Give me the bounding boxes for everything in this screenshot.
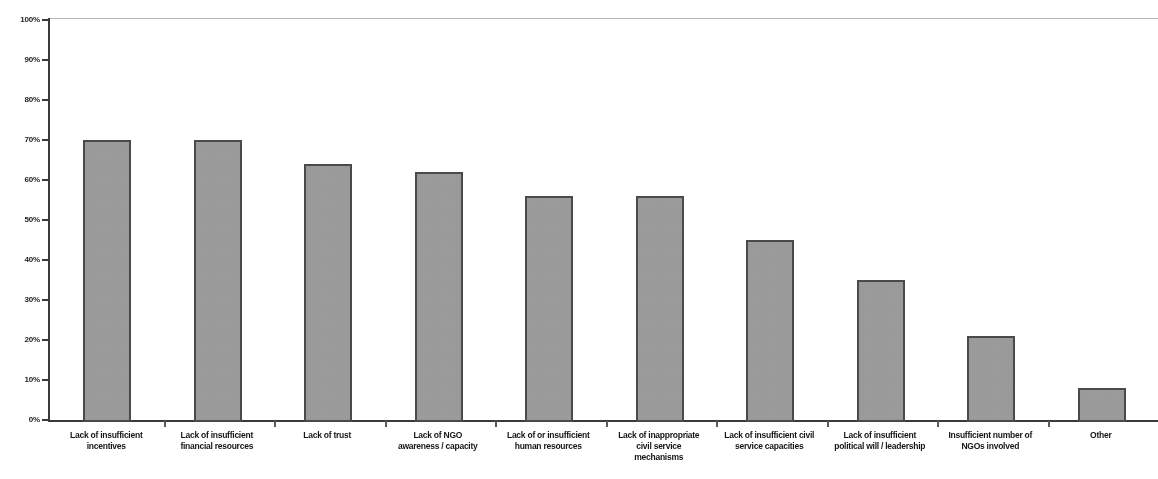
y-axis-tick-label: 60% <box>0 175 40 184</box>
y-axis-tick <box>42 99 49 101</box>
category-label-line: Lack of NGO <box>383 430 494 441</box>
category-label-line: service capacities <box>714 441 825 452</box>
x-axis-category-label: Lack of insufficientincentives <box>51 430 162 452</box>
x-axis-category-label: Insufficient number ofNGOs involved <box>935 430 1046 452</box>
bar <box>525 196 573 422</box>
y-axis-tick-label: 30% <box>0 295 40 304</box>
category-label-line: Other <box>1046 430 1157 441</box>
bar <box>967 336 1015 422</box>
x-axis-category-label: Lack of insufficientfinancial resources <box>162 430 273 452</box>
x-axis-tick <box>164 421 166 427</box>
category-label-line: Lack of or insufficient <box>493 430 604 441</box>
category-label-line: civil service <box>604 441 715 452</box>
bar <box>304 164 352 422</box>
y-axis-tick <box>42 139 49 141</box>
category-label-line: awareness / capacity <box>383 441 494 452</box>
y-axis-tick <box>42 339 49 341</box>
category-label-line: mechanisms <box>604 452 715 463</box>
bar <box>194 140 242 422</box>
x-axis-category-label: Other <box>1046 430 1157 441</box>
y-axis-tick <box>42 419 49 421</box>
y-axis-tick-label: 10% <box>0 375 40 384</box>
category-label-line: Lack of insufficient <box>51 430 162 441</box>
category-label-line: Lack of trust <box>272 430 383 441</box>
x-axis-category-label: Lack of inappropriatecivil servicemechan… <box>604 430 715 463</box>
y-axis-tick <box>42 59 49 61</box>
x-axis-category-label: Lack of insufficient civilservice capaci… <box>714 430 825 452</box>
plot-top-rule <box>48 18 1158 19</box>
category-label-line: Lack of insufficient <box>162 430 273 441</box>
category-label-line: Lack of insufficient <box>825 430 936 441</box>
category-label-line: Lack of inappropriate <box>604 430 715 441</box>
x-axis-tick <box>274 421 276 427</box>
x-axis-tick <box>827 421 829 427</box>
y-axis-tick-label: 100% <box>0 15 40 24</box>
y-axis-tick <box>42 259 49 261</box>
bar <box>83 140 131 422</box>
y-axis-tick <box>42 19 49 21</box>
x-axis-tick <box>716 421 718 427</box>
category-label-line: human resources <box>493 441 604 452</box>
category-label-line: Lack of insufficient civil <box>714 430 825 441</box>
y-axis-tick-label: 40% <box>0 255 40 264</box>
y-axis-tick-label: 90% <box>0 55 40 64</box>
x-axis-tick <box>937 421 939 427</box>
bar <box>746 240 794 422</box>
x-axis-category-label: Lack of insufficientpolitical will / lea… <box>825 430 936 452</box>
x-axis-tick <box>606 421 608 427</box>
y-axis-tick <box>42 379 49 381</box>
y-axis-tick-label: 0% <box>0 415 40 424</box>
x-axis-tick <box>1048 421 1050 427</box>
y-axis-tick-label: 80% <box>0 95 40 104</box>
bar <box>636 196 684 422</box>
category-label-line: incentives <box>51 441 162 452</box>
x-axis-category-label: Lack of trust <box>272 430 383 441</box>
bar <box>415 172 463 422</box>
x-axis-category-label: Lack of NGOawareness / capacity <box>383 430 494 452</box>
x-axis-tick <box>385 421 387 427</box>
x-axis-tick <box>495 421 497 427</box>
x-axis-category-label: Lack of or insufficienthuman resources <box>493 430 604 452</box>
y-axis-tick <box>42 299 49 301</box>
y-axis-tick-label: 50% <box>0 215 40 224</box>
bar-chart: 100%90%80%70%60%50%40%30%20%10%0% Lack o… <box>0 0 1158 479</box>
y-axis-tick <box>42 179 49 181</box>
category-label-line: NGOs involved <box>935 441 1046 452</box>
category-label-line: Insufficient number of <box>935 430 1046 441</box>
y-axis-tick <box>42 219 49 221</box>
category-label-line: financial resources <box>162 441 273 452</box>
y-axis-tick-label: 70% <box>0 135 40 144</box>
category-label-line: political will / leadership <box>825 441 936 452</box>
bar <box>1078 388 1126 422</box>
bar <box>857 280 905 422</box>
y-axis-tick-label: 20% <box>0 335 40 344</box>
